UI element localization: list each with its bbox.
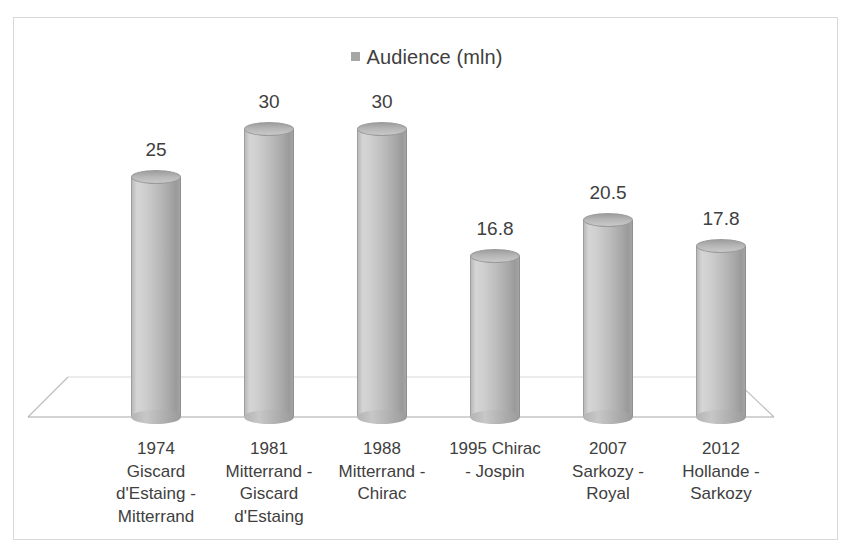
bar-group[interactable]: 20.5 <box>583 220 633 417</box>
bar-cylinder[interactable] <box>696 246 746 417</box>
category-label-line: d'Estaing <box>213 506 326 529</box>
category-label-line: 1988 <box>326 438 439 461</box>
chart-frame: Audience (mln) 25303016.820.517.8 1974Gi… <box>13 17 838 540</box>
category-label-line: 1974 <box>100 438 213 461</box>
bar-value-label: 16.8 <box>477 218 514 240</box>
category-label-line: Giscard <box>213 483 326 506</box>
bar-cylinder[interactable] <box>470 256 520 417</box>
category-label-line: 2012 <box>665 438 778 461</box>
category-label-line: Royal <box>552 483 665 506</box>
bar-value-label: 17.8 <box>703 208 740 230</box>
category-label-line: Chirac <box>326 483 439 506</box>
category-label-line: Mitterrand - <box>326 461 439 484</box>
category-label-line: Mitterrand - <box>213 461 326 484</box>
bar-value-label: 20.5 <box>590 182 627 204</box>
bar-bottom-cap <box>244 410 294 424</box>
bar-bottom-cap <box>696 410 746 424</box>
bar-bottom-cap <box>583 410 633 424</box>
category-label-line: 1981 <box>213 438 326 461</box>
bar-top-cap <box>696 239 746 253</box>
bar-top-cap <box>470 249 520 263</box>
bar-group[interactable]: 30 <box>357 129 407 417</box>
bar-group[interactable]: 17.8 <box>696 246 746 417</box>
category-axis: 1974Giscardd'Estaing -Mitterrand1981Mitt… <box>14 428 839 538</box>
bar-value-label: 30 <box>258 91 279 113</box>
bar-cylinder[interactable] <box>244 129 294 417</box>
bar-top-cap <box>131 170 181 184</box>
bar-top-cap <box>244 122 294 136</box>
category-label-line: 2007 <box>552 438 665 461</box>
bar-bottom-cap <box>470 410 520 424</box>
category-label-line: - Jospin <box>439 461 552 484</box>
bar-top-cap <box>357 122 407 136</box>
category-label-line: Sarkozy - <box>552 461 665 484</box>
category-label: 2007Sarkozy -Royal <box>552 438 665 506</box>
bar-group[interactable]: 25 <box>131 177 181 417</box>
bar-value-label: 30 <box>371 91 392 113</box>
category-label: 1981Mitterrand -Giscardd'Estaing <box>213 438 326 528</box>
category-label-line: Hollande - <box>665 461 778 484</box>
category-label-line: Giscard <box>100 461 213 484</box>
category-label: 1995 Chirac- Jospin <box>439 438 552 483</box>
bar-cylinder[interactable] <box>131 177 181 417</box>
bar-cylinder[interactable] <box>583 220 633 417</box>
category-label: 1988Mitterrand -Chirac <box>326 438 439 506</box>
bar-top-cap <box>583 213 633 227</box>
bar-cylinder[interactable] <box>357 129 407 417</box>
plot-area: Audience (mln) 25303016.820.517.8 1974Gi… <box>14 18 839 541</box>
bar-bottom-cap <box>131 410 181 424</box>
category-label-line: d'Estaing - <box>100 483 213 506</box>
category-label: 1974Giscardd'Estaing -Mitterrand <box>100 438 213 528</box>
bar-bottom-cap <box>357 410 407 424</box>
category-label-line: Sarkozy <box>665 483 778 506</box>
bar-group[interactable]: 16.8 <box>470 256 520 417</box>
bar-value-label: 25 <box>145 139 166 161</box>
category-label-line: 1995 Chirac <box>439 438 552 461</box>
category-label: 2012Hollande -Sarkozy <box>665 438 778 506</box>
bar-group[interactable]: 30 <box>244 129 294 417</box>
category-label-line: Mitterrand <box>100 506 213 529</box>
